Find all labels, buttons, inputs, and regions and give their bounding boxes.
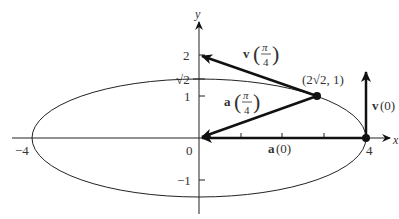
svg-text:(: ( — [234, 89, 241, 114]
svg-text:v: v — [243, 46, 250, 61]
svg-text:(0): (0) — [380, 98, 395, 113]
label-a-pi-over-4: a ( π 4 ) — [224, 89, 260, 116]
label-v-pi-over-4: v ( π 4 ) — [243, 41, 279, 68]
label-v-0: v (0) — [372, 98, 395, 113]
svg-text:a: a — [268, 141, 275, 156]
point-4-0 — [362, 134, 370, 142]
y-tick-label-2: 2 — [183, 48, 190, 63]
x-tick-label-0: 0 — [186, 143, 193, 158]
y-axis-label: y — [194, 7, 201, 21]
svg-text:π: π — [262, 41, 268, 53]
svg-text:): ) — [253, 89, 260, 114]
label-a-0: a (0) — [268, 141, 291, 156]
svg-text:v: v — [372, 98, 379, 113]
point-2sqrt2-1 — [313, 92, 321, 100]
svg-text:a: a — [224, 94, 231, 109]
svg-text:(: ( — [253, 41, 260, 66]
x-axis-label: x — [392, 133, 399, 147]
y-tick-label-1: 1 — [184, 89, 191, 104]
y-tick-label-neg1: −1 — [177, 173, 191, 188]
svg-text:4: 4 — [263, 56, 269, 68]
svg-text:): ) — [272, 41, 279, 66]
svg-text:(0): (0) — [276, 141, 291, 156]
svg-text:4: 4 — [244, 104, 250, 116]
point-label: (2√2, 1) — [302, 72, 344, 87]
x-tick-label-4: 4 — [366, 143, 373, 158]
svg-text:π: π — [243, 89, 249, 101]
ellipse-diagram: y x −4 0 4 2 √2 1 −1 (2√2, 1) v ( π 4 ) … — [0, 0, 399, 219]
y-tick-label-sqrt2: √2 — [176, 72, 190, 87]
x-tick-label-neg4: −4 — [15, 143, 29, 158]
